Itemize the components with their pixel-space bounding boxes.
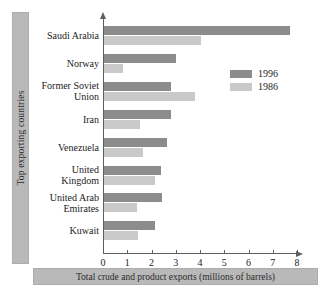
x-axis-tick-label: 2 bbox=[149, 257, 154, 268]
legend-swatch-1986 bbox=[230, 83, 252, 91]
y-axis-label-1: Norway bbox=[67, 58, 99, 69]
bar-1996 bbox=[104, 193, 162, 202]
legend-label-1996: 1996 bbox=[258, 68, 278, 79]
bar-1986 bbox=[104, 64, 123, 73]
y-axis-label-3: Iran bbox=[83, 114, 99, 125]
x-axis-tick bbox=[127, 250, 128, 254]
bar-1986 bbox=[104, 36, 201, 45]
bar-group bbox=[104, 138, 299, 157]
x-axis-tick-label: 4 bbox=[198, 257, 203, 268]
x-axis-tick-label: 0 bbox=[101, 257, 106, 268]
x-axis-tick bbox=[200, 250, 201, 254]
x-axis-tick-label: 1 bbox=[125, 257, 130, 268]
x-axis-tick-label: 8 bbox=[295, 257, 300, 268]
y-axis-label-4: Venezuela bbox=[58, 142, 99, 153]
bar-1986 bbox=[104, 148, 143, 157]
bar-1996 bbox=[104, 138, 167, 147]
legend-item-1996: 1996 bbox=[230, 68, 278, 79]
x-axis-tick bbox=[297, 250, 298, 254]
bar-group bbox=[104, 193, 299, 212]
bar-1996 bbox=[104, 26, 290, 35]
y-axis-label-2: Former SovietUnion bbox=[42, 80, 100, 102]
chart-page: Top exporting countries Saudi ArabiaNorw… bbox=[0, 0, 326, 293]
bar-1986 bbox=[104, 176, 155, 185]
x-axis-title-band: Total crude and product exports (million… bbox=[33, 268, 318, 285]
x-axis-tick-label: 3 bbox=[173, 257, 178, 268]
y-axis-label-7: Kuwait bbox=[70, 225, 99, 236]
x-axis-tick-label: 7 bbox=[270, 257, 275, 268]
bar-1996 bbox=[104, 166, 161, 175]
bar-group bbox=[104, 221, 299, 240]
x-axis-tick-label: 6 bbox=[246, 257, 251, 268]
x-axis-tick bbox=[224, 250, 225, 254]
x-axis-tick bbox=[176, 250, 177, 254]
bars-area bbox=[104, 18, 299, 253]
legend-label-1986: 1986 bbox=[258, 81, 278, 92]
x-axis-tick-label: 5 bbox=[222, 257, 227, 268]
bar-1986 bbox=[104, 120, 140, 129]
legend: 1996 1986 bbox=[230, 68, 278, 94]
bar-1996 bbox=[104, 54, 176, 63]
bar-group bbox=[104, 110, 299, 129]
y-axis-title-band: Top exporting countries bbox=[12, 12, 29, 264]
bar-group bbox=[104, 26, 299, 45]
x-axis-tick bbox=[152, 250, 153, 254]
y-axis-label-6: United ArabEmirates bbox=[50, 192, 99, 214]
bar-group bbox=[104, 166, 299, 185]
plot-area bbox=[103, 18, 299, 254]
legend-item-1986: 1986 bbox=[230, 81, 278, 92]
legend-swatch-1996 bbox=[230, 70, 252, 78]
bar-1996 bbox=[104, 82, 171, 91]
x-axis-title: Total crude and product exports (million… bbox=[76, 272, 275, 282]
bar-1996 bbox=[104, 110, 171, 119]
bar-1986 bbox=[104, 92, 195, 101]
y-axis-title: Top exporting countries bbox=[16, 90, 26, 185]
x-axis-tick bbox=[249, 250, 250, 254]
y-axis-label-5: UnitedKingdom bbox=[61, 164, 99, 186]
bar-1986 bbox=[104, 203, 137, 212]
bar-1986 bbox=[104, 231, 138, 240]
y-axis-category-labels: Saudi ArabiaNorwayFormer SovietUnionIran… bbox=[33, 18, 101, 254]
y-axis-label-0: Saudi Arabia bbox=[47, 30, 99, 41]
x-axis-tick bbox=[273, 250, 274, 254]
bar-1996 bbox=[104, 221, 155, 230]
